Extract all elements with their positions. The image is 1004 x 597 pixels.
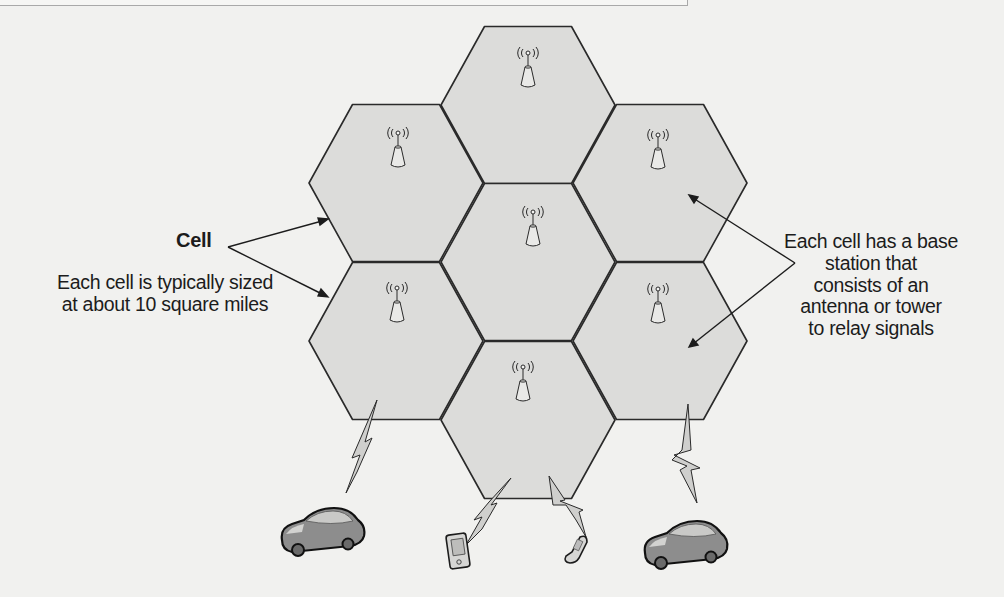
base-station-line-4: antenna or tower xyxy=(762,296,980,318)
cell-size-line-1: Each cell is typically sized xyxy=(34,272,296,294)
base-station-line-3: consists of an xyxy=(762,275,980,297)
pda-icon xyxy=(446,533,471,569)
base-station-line-5: to relay signals xyxy=(762,318,980,340)
base-station-annotation: Each cell has a base station that consis… xyxy=(762,231,980,340)
cell-size-line-2: at about 10 square miles xyxy=(34,294,296,316)
car-icon-right xyxy=(645,521,728,569)
cell-label: Cell xyxy=(176,229,211,251)
car-icon-left xyxy=(282,508,365,556)
base-station-line-2: station that xyxy=(762,253,980,275)
flip-phone-icon xyxy=(565,536,587,563)
base-station-line-1: Each cell has a base xyxy=(762,231,980,253)
cell-size-annotation: Each cell is typically sized at about 10… xyxy=(34,272,296,316)
